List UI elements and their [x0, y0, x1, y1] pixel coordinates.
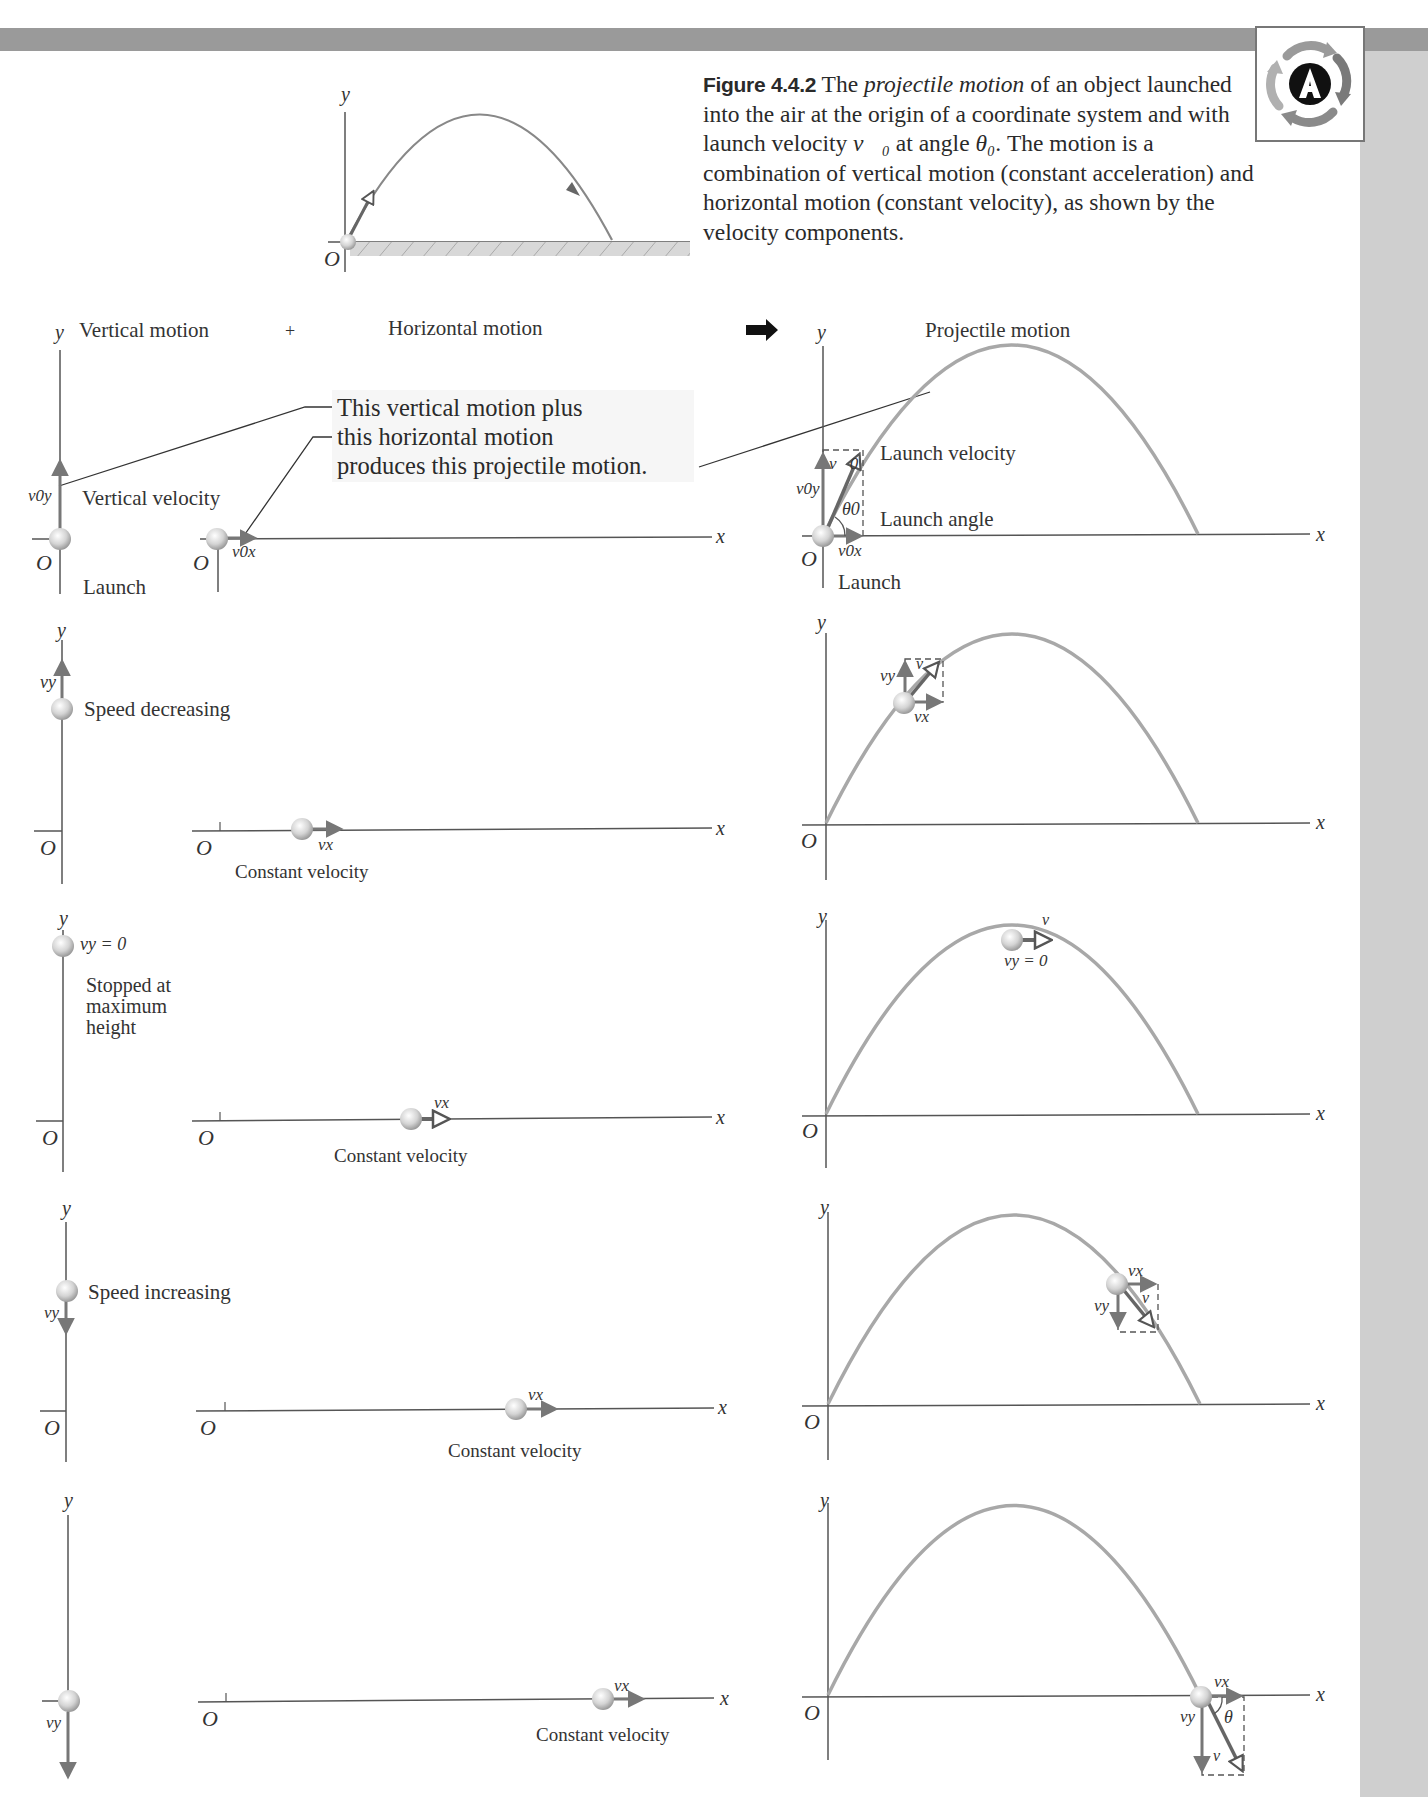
- callout-text: This vertical motion plus this horizonta…: [337, 393, 647, 480]
- top-y-axis-label: y: [341, 84, 350, 104]
- vertical-velocity-label: Vertical velocity: [82, 488, 220, 509]
- theta0-label: θ0: [842, 500, 860, 518]
- row-max-height: [36, 920, 1310, 1172]
- horizontal-motion-header: Horizontal motion: [388, 318, 543, 339]
- speed-increasing-label: Speed increasing: [88, 1282, 231, 1303]
- v0y-label: v0y: [28, 487, 52, 504]
- row-speed-decreasing: [34, 633, 1310, 884]
- top-trajectory-figure: [328, 112, 690, 272]
- projectile-y-label: y: [817, 322, 826, 342]
- launch-angle-label: Launch angle: [880, 509, 994, 530]
- speed-decreasing-label: Speed decreasing: [84, 699, 230, 720]
- combines-arrow-icon: [746, 319, 778, 341]
- launch-label: Launch: [83, 577, 146, 598]
- stopped-max-height-label: Stopped at maximum height: [86, 975, 171, 1038]
- vertical-y-label: y: [55, 322, 64, 342]
- row-speed-increasing: [40, 1212, 1310, 1462]
- vertical-motion-header: Vertical motion: [79, 320, 209, 341]
- projectile-motion-header: Projectile motion: [925, 320, 1070, 341]
- plus-sign: +: [285, 322, 295, 340]
- launch-velocity-label: Launch velocity: [880, 443, 1016, 464]
- vy-zero-label: vy = 0: [80, 935, 126, 953]
- v0-vector-label: v⃗0: [829, 455, 858, 472]
- theta-label: θ: [1224, 1708, 1233, 1726]
- projectile-diagram: [0, 0, 1428, 1797]
- projectile-launch-label: Launch: [838, 572, 901, 593]
- row-landing: [42, 1503, 1310, 1776]
- top-origin-label: O: [324, 248, 340, 270]
- v0x-label: v0x: [232, 543, 256, 560]
- constant-velocity-label: Constant velocity: [235, 862, 369, 881]
